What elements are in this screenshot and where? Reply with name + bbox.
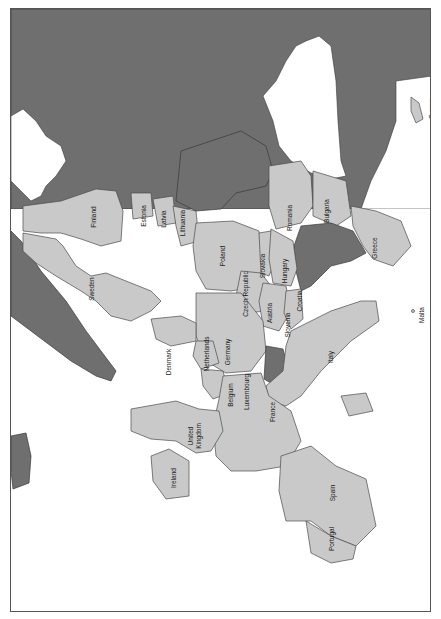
- label-poland: Poland: [220, 246, 227, 266]
- label-spain: Spain: [330, 485, 337, 502]
- label-lithuania: Lithuania: [180, 210, 187, 236]
- label-belgium: Belgium: [228, 383, 235, 406]
- label-croatia: Croatia: [297, 291, 304, 312]
- label-luxembourg: Luxembourg: [244, 374, 251, 410]
- eu-map-svg: [11, 9, 431, 612]
- map-frame: Finland Sweden Estonia Latvia Lithuania …: [10, 8, 431, 612]
- label-sweden: Sweden: [89, 277, 96, 301]
- label-romania: Romania: [287, 205, 294, 231]
- label-hungary: Hungary: [282, 259, 289, 284]
- label-france: France: [270, 402, 277, 422]
- label-greece: Greece: [372, 237, 379, 258]
- label-estonia: Estonia: [141, 205, 148, 227]
- label-denmark: Denmark: [166, 349, 173, 375]
- label-netherlands: Netherlands: [204, 336, 211, 371]
- label-germany: Germany: [225, 339, 232, 366]
- country-malta[interactable]: [412, 310, 415, 313]
- label-slovakia: Slovakia: [260, 254, 267, 279]
- label-cyprus: Cyprus: [429, 99, 431, 120]
- label-finland: Finland: [91, 206, 98, 227]
- label-united-kingdom-line1: United: [188, 427, 195, 446]
- label-italy: Italy: [328, 351, 335, 363]
- label-ireland: Ireland: [171, 468, 178, 488]
- label-united-kingdom-line2: Kingdom: [196, 423, 203, 449]
- label-latvia: Latvia: [161, 210, 168, 227]
- label-bulgaria: Bulgaria: [324, 199, 331, 223]
- label-austria: Austria: [267, 303, 274, 323]
- label-malta: Malta: [419, 307, 426, 323]
- atlantic-non-member-landmass: [11, 433, 31, 489]
- label-slovenia: Slovenia: [285, 313, 292, 338]
- label-portugal: Portugal: [329, 527, 336, 551]
- label-czech-republic: Czech Republic: [243, 271, 250, 317]
